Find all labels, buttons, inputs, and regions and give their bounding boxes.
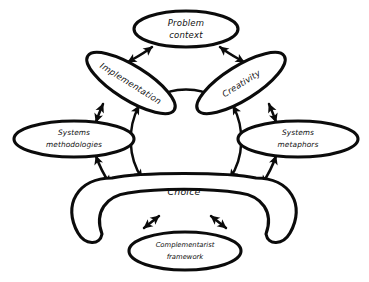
systems-metaphors-label-line1: Systems: [282, 128, 314, 137]
complementarist-framework-shape: [129, 232, 241, 270]
systems-metaphors-shape: [238, 121, 358, 157]
node-systems-methodologies: Systems methodologies: [14, 121, 134, 157]
systems-methodologies-label-line1: Systems: [58, 128, 90, 137]
systems-methodologies-label-line2: methodologies: [46, 140, 102, 149]
complementarist-framework-label-line2: framework: [167, 253, 205, 261]
node-complementarist-framework: Complementarist framework: [129, 232, 241, 270]
problem-context-label-line1: Problem: [168, 18, 205, 28]
node-problem-context: Problem context: [134, 11, 238, 47]
diagram-root: Choice Problem context Implementation Cr…: [0, 0, 369, 282]
node-systems-metaphors: Systems metaphors: [238, 121, 358, 157]
problem-context-label-line2: context: [169, 30, 203, 40]
choice-label: Choice: [168, 186, 201, 197]
systems-methodologies-shape: [14, 121, 134, 157]
complementarist-framework-label-line1: Complementarist: [156, 241, 215, 249]
systems-metaphors-label-line2: metaphors: [278, 140, 319, 149]
systems-thinking-diagram: Choice Problem context Implementation Cr…: [0, 0, 369, 282]
